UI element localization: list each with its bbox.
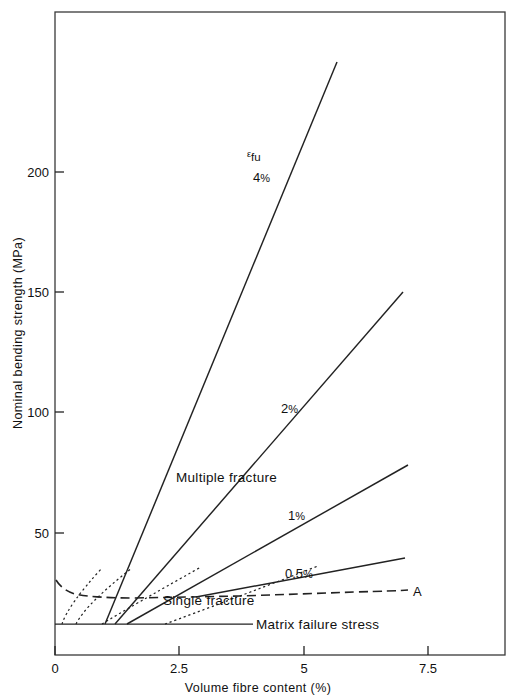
percent-sign-4: % [260, 172, 270, 184]
annotation-4-percent: 4% [253, 170, 270, 185]
value-0-5: 0.5 [285, 566, 303, 581]
x-tick-label-2-5: 2.5 [170, 661, 188, 676]
figure-container: 200 150 100 50 0 2.5 5 7.5 Volume fibre … [0, 0, 512, 698]
x-tick-label-0: 0 [51, 661, 58, 676]
bending-strength-chart: 200 150 100 50 0 2.5 5 7.5 Volume fibre … [0, 0, 512, 698]
percent-sign-2: % [288, 403, 298, 415]
annotation-0-5-percent: 0.5% [285, 566, 313, 581]
label-0-5-percent: 0.5% [285, 566, 313, 581]
y-tick-label-50: 50 [35, 526, 49, 541]
x-tick-label-5: 5 [300, 661, 307, 676]
label-4-percent: 4% [253, 170, 270, 185]
y-tick-label-200: 200 [27, 165, 49, 180]
label-single-fracture: Single fracture [163, 593, 255, 608]
annotation-2-percent: 2% [281, 401, 298, 416]
label-matrix-failure-stress: Matrix failure stress [256, 617, 379, 632]
x-tick-label-7-5: 7.5 [419, 661, 437, 676]
percent-sign-1: % [295, 510, 305, 522]
y-tick-label-100: 100 [27, 405, 49, 420]
value-4: 4 [253, 170, 260, 185]
label-1-percent: 1% [288, 508, 305, 523]
label-2-percent: 2% [281, 401, 298, 416]
label-multiple-fracture: Multiple fracture [176, 470, 277, 485]
percent-sign-0-5: % [303, 568, 313, 580]
epsilon-subscript-fu: fu [251, 151, 261, 163]
annotation-1-percent: 1% [288, 508, 305, 523]
value-1: 1 [288, 508, 295, 523]
value-2: 2 [281, 401, 288, 416]
y-axis-title: Nominal bending strength (MPa) [11, 237, 25, 429]
label-curve-A: A [413, 584, 422, 599]
figure-caption [4, 686, 504, 697]
plot-frame [55, 12, 505, 655]
y-tick-label-150: 150 [27, 285, 49, 300]
